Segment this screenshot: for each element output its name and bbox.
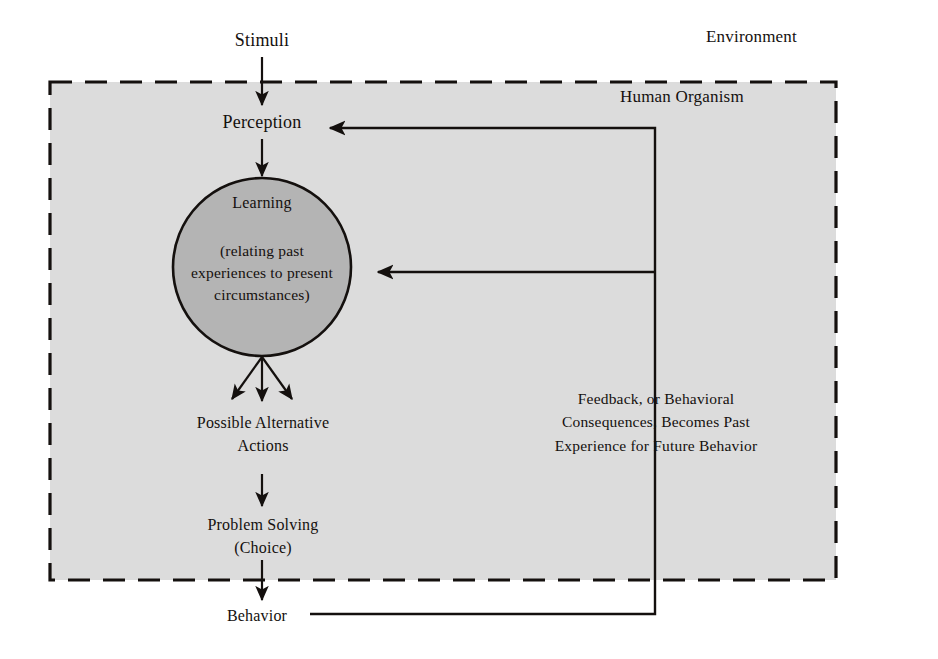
node-learning-title: Learning — [192, 192, 332, 213]
node-behavior: Behavior — [182, 605, 332, 626]
diagram-canvas: Environment Human Organism Stimuli Perce… — [0, 0, 938, 659]
feedback-annotation: Feedback, or Behavioral Consequences, Be… — [540, 387, 772, 457]
node-problem-solving: Problem Solving (Choice) — [180, 513, 346, 559]
human-organism-label: Human Organism — [620, 86, 830, 108]
node-learning-detail: (relating past experiences to present ci… — [186, 240, 338, 306]
node-possible-alternative-actions: Possible Alternative Actions — [192, 411, 334, 457]
environment-label: Environment — [706, 26, 886, 48]
node-perception: Perception — [182, 111, 342, 135]
node-stimuli: Stimuli — [182, 29, 342, 53]
human-organism-region — [50, 82, 836, 580]
